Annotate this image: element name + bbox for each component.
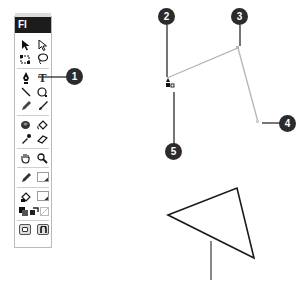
anchor-point: [236, 46, 239, 49]
pen-tool-diagram: [0, 0, 307, 285]
pen-cursor-icon: [166, 78, 174, 87]
anchor-point: [256, 120, 259, 123]
open-path: [167, 48, 258, 122]
callout-4: 4: [279, 115, 296, 132]
callout-1: 1: [66, 68, 83, 85]
callout-3: 3: [231, 8, 248, 25]
callout-2: 2: [158, 8, 175, 25]
callout-5: 5: [165, 143, 182, 160]
